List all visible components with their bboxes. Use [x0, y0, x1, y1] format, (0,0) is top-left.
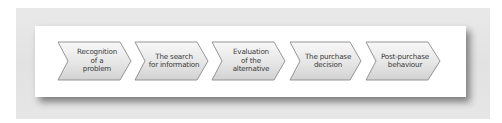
step-label-recognition-of-a-problem: Recognition of a problem [66, 44, 128, 78]
step-label-purchase-decision: The purchase decision [297, 44, 359, 78]
step-label-post-purchase-behaviour: Post-purchase behaviour [373, 44, 437, 78]
step-label-search-for-information: The search for information [143, 44, 205, 78]
step-label-evaluation-of-alternative: Evaluation of the alternative [220, 44, 282, 78]
